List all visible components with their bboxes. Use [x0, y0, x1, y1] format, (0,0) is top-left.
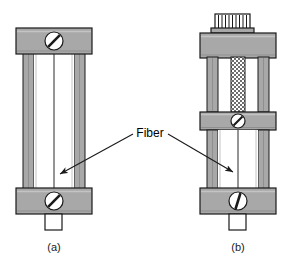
- figure-canvas: (a): [0, 0, 299, 265]
- panel-b-right-post-upper: [258, 57, 269, 112]
- panel-b: (b): [200, 14, 276, 253]
- panel-b-knurled-knob: [211, 14, 254, 33]
- panel-b-bottom-clamp-block: [200, 188, 276, 214]
- panel-b-left-post-upper: [207, 57, 218, 112]
- panel-b-top-clamp-block: [200, 33, 276, 58]
- panel-a-bottom-clamp-block: [16, 188, 92, 214]
- panel-b-caption: (b): [231, 241, 244, 253]
- panel-b-threaded-rod: [231, 57, 245, 112]
- fiber-holder-figure: (a): [0, 0, 299, 265]
- panel-a-left-post: [23, 52, 34, 190]
- panel-a-caption: (a): [47, 241, 60, 253]
- panel-a: (a): [16, 28, 92, 253]
- panel-b-bottom-tab: [229, 214, 246, 230]
- panel-a-right-post: [74, 52, 85, 190]
- panel-a-bottom-tab: [45, 214, 62, 230]
- panel-b-middle-clamp-block: [200, 112, 276, 130]
- panel-a-top-clamp-block: [16, 28, 92, 54]
- fiber-label: Fiber: [136, 126, 163, 140]
- panel-b-right-post-lower: [258, 130, 269, 190]
